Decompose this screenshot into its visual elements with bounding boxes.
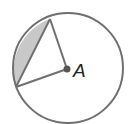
circle-segment-diagram: A — [0, 0, 133, 124]
radius-upper — [50, 19, 67, 69]
center-label: A — [72, 60, 86, 81]
center-point — [64, 66, 71, 73]
